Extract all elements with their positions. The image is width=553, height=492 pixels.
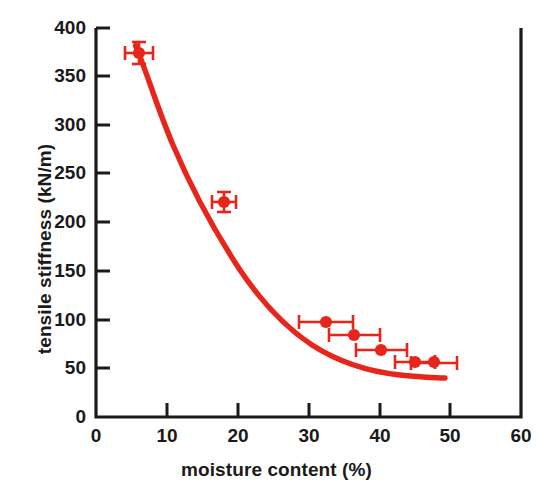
- x-tick-label-50: 50: [430, 425, 470, 447]
- x-axis-ticks: [167, 403, 450, 417]
- x-tick-label-10: 10: [147, 425, 187, 447]
- y-tick-label-400: 400: [40, 17, 86, 39]
- data-point-4: [329, 328, 380, 342]
- y-tick-label-350: 350: [40, 65, 86, 87]
- marker-1: [133, 47, 145, 59]
- x-tick-label-30: 30: [289, 425, 329, 447]
- data-series: [125, 42, 457, 370]
- marker-2: [218, 196, 230, 208]
- y-axis-ticks: [96, 28, 110, 368]
- marker-7: [428, 356, 440, 368]
- chart-figure: 400 350 300 250 200 150 100 50 0 0 10 20…: [0, 0, 553, 492]
- x-tick-label-20: 20: [218, 425, 258, 447]
- data-point-1: [125, 42, 153, 64]
- x-tick-label-60: 60: [501, 425, 541, 447]
- fit-curve: [136, 46, 445, 379]
- x-axis-title: moisture content (%): [0, 459, 553, 481]
- x-tick-label-40: 40: [360, 425, 400, 447]
- y-axis-title: tensile stiffness (kN/m): [34, 99, 56, 399]
- data-point-2: [212, 192, 236, 212]
- data-point-3: [299, 315, 353, 329]
- x-tick-label-0: 0: [76, 425, 116, 447]
- marker-3: [320, 316, 332, 328]
- marker-4: [348, 329, 360, 341]
- marker-5: [375, 344, 387, 356]
- data-point-5: [356, 343, 407, 357]
